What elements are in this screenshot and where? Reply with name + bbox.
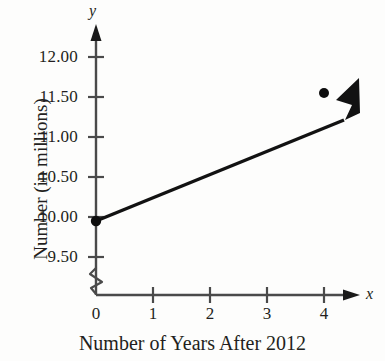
x-axis-variable-label: x xyxy=(366,285,373,303)
data-point-0 xyxy=(91,216,101,226)
x-tick-label-4: 4 xyxy=(309,304,339,324)
y-axis-title: Number (in millions) xyxy=(30,54,52,304)
data-line xyxy=(96,120,344,221)
x-tick-label-3: 3 xyxy=(252,304,282,324)
y-axis-variable-label: y xyxy=(89,2,96,20)
x-tick-label-1: 1 xyxy=(138,304,168,324)
data-point-4 xyxy=(319,88,329,98)
chart-figure: 12.00 11.50 11.00 10.50 10.00 9.50 0 1 2… xyxy=(0,0,385,361)
x-axis-arrowhead xyxy=(343,290,360,301)
x-axis-title: Number of Years After 2012 xyxy=(0,332,385,355)
y-axis-arrowhead xyxy=(91,24,102,41)
x-tick-label-2: 2 xyxy=(195,304,225,324)
data-line-arrowhead xyxy=(336,78,360,120)
x-tick-label-0: 0 xyxy=(81,304,111,324)
